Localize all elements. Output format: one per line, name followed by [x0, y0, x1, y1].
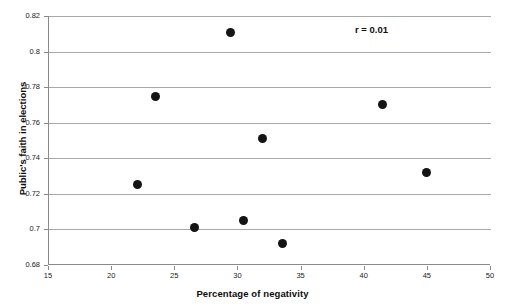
data-point [378, 100, 387, 109]
y-tick-mark [44, 123, 48, 124]
x-tick-label: 35 [296, 272, 304, 280]
data-point [151, 92, 160, 101]
data-point [226, 28, 235, 37]
x-axis-title: Percentage of negativity [0, 288, 505, 299]
x-tick-mark [111, 266, 112, 270]
gridline [49, 87, 491, 88]
gridline [49, 194, 491, 195]
y-tick-mark [44, 16, 48, 17]
gridline [49, 158, 491, 159]
x-tick-label: 40 [360, 272, 368, 280]
gridline [49, 229, 491, 230]
data-point [258, 134, 267, 143]
gridline [49, 123, 491, 124]
y-tick-label: 0.7 [0, 225, 40, 233]
y-tick-mark [44, 194, 48, 195]
x-tick-mark [48, 266, 49, 270]
data-point [133, 180, 142, 189]
data-point [278, 239, 287, 248]
x-tick-mark [427, 266, 428, 270]
data-point [190, 223, 199, 232]
scatter-chart: 0.680.70.720.740.760.780.80.82 152025303… [0, 0, 505, 308]
x-tick-mark [174, 266, 175, 270]
x-tick-mark [237, 266, 238, 270]
y-tick-mark [44, 158, 48, 159]
y-tick-mark [44, 87, 48, 88]
plot-area [48, 16, 490, 265]
x-tick-mark [301, 266, 302, 270]
x-tick-label: 25 [170, 272, 178, 280]
gridline [49, 16, 491, 17]
correlation-annotation: r = 0.01 [355, 24, 388, 35]
data-point [239, 216, 248, 225]
y-tick-mark [44, 229, 48, 230]
x-tick-mark [364, 266, 365, 270]
x-tick-label: 45 [423, 272, 431, 280]
x-tick-label: 20 [107, 272, 115, 280]
x-tick-label: 50 [486, 272, 494, 280]
y-tick-label: 0.68 [0, 261, 40, 269]
x-tick-label: 15 [44, 272, 52, 280]
x-tick-label: 30 [233, 272, 241, 280]
x-tick-mark [490, 266, 491, 270]
y-tick-label: 0.82 [0, 12, 40, 20]
y-axis-title: Public's faith in elections [17, 54, 28, 224]
y-tick-mark [44, 52, 48, 53]
gridline [49, 52, 491, 53]
data-point [422, 168, 431, 177]
